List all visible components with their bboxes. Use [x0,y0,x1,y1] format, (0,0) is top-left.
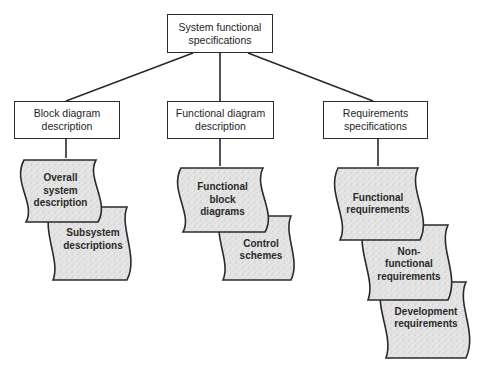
document-label-line: requirements [394,318,457,331]
branch-label-line1: Block diagram [34,107,101,120]
connector-root-to-block [66,53,193,101]
document-label-line: block [197,194,248,207]
document-label: Functional requirements [332,166,424,242]
branch-node-functional-diagram-description: Functional diagram description [167,101,274,139]
document-overall-system-description: Overall system description [18,158,103,224]
document-label-line: Non- [377,246,440,259]
document-label-line: schemes [240,250,283,263]
document-functional-block-diagrams: Functional block diagrams [175,166,270,234]
connector-root-to-requirements [248,53,373,101]
document-label-line: Subsystem [63,227,122,240]
branch-node-requirements-specifications: Requirements specifications [323,101,428,139]
diagram-canvas: System functional specifications Block d… [0,0,482,371]
branch-label-line1: Functional diagram [176,107,265,120]
document-label-line: Control [240,238,283,251]
document-label-line: system [34,185,88,198]
document-functional-requirements: Functional requirements [332,166,424,242]
branch-label-line2: description [176,120,265,133]
document-label-line: descriptions [63,240,122,253]
document-label-line: diagrams [197,206,248,219]
document-label-line: Functional [197,181,248,194]
document-label: Functional block diagrams [175,166,270,234]
document-label-line: requirements [346,204,409,217]
document-label-line: requirements [377,271,440,284]
branch-label-line2: specifications [343,120,408,133]
document-label-line: functional [377,258,440,271]
document-label-line: Overall [34,172,88,185]
branch-node-block-diagram-description: Block diagram description [14,101,120,139]
branch-label-line2: description [34,120,101,133]
root-node-label-line1: System functional [179,21,262,34]
document-label: Overall system description [18,158,103,224]
branch-label-line1: Requirements [343,107,408,120]
root-node-system-functional-specifications: System functional specifications [167,14,273,53]
root-node-label-line2: specifications [179,34,262,47]
document-label-line: Functional [346,192,409,205]
document-label-line: Development [394,306,457,319]
document-label-line: description [34,197,88,210]
